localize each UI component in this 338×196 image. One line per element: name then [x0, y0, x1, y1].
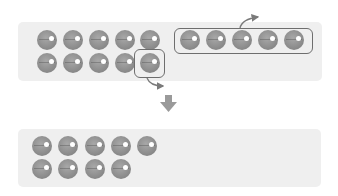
ball: [111, 136, 131, 156]
ball: [58, 159, 78, 179]
remove-arrow-icon: [147, 78, 163, 86]
ball: [111, 159, 131, 179]
ball: [32, 136, 52, 156]
ball: [85, 159, 105, 179]
ball: [137, 136, 157, 156]
ball: [58, 136, 78, 156]
ball: [85, 136, 105, 156]
remove-arrow-icon: [240, 17, 258, 28]
down-arrow-icon: [160, 95, 177, 112]
ball: [32, 159, 52, 179]
